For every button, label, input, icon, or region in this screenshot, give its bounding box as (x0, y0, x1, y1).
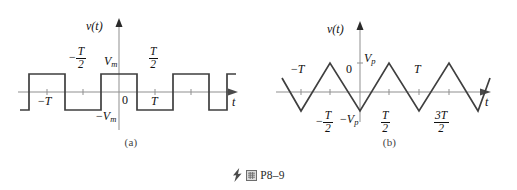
panel-b-amp-neg-label: −Vp (340, 113, 358, 126)
panel-b-ticks (301, 63, 449, 95)
panel-b-triangle-wave: v(t) t 0 Vp −Vp −T −T2 T2 T 3T2 (b) (262, 0, 517, 160)
panel-a-pos-half-T-label: T2 (148, 46, 158, 71)
panel-b-xaxis-label: t (485, 96, 488, 108)
panel-b-amp-pos-label: Vp (364, 52, 376, 65)
panel-b-neg-T-label: −T (291, 63, 304, 75)
panel-a-amp-pos-label: Vm (104, 55, 117, 68)
panel-b-three-half-T-label: 3T2 (433, 110, 449, 135)
panel-a-subcaption: (a) (0, 136, 262, 148)
panel-a-pos-T-label: T (151, 95, 158, 107)
panel-b-x-axis (276, 89, 491, 96)
panel-b-pos-half-T-label: T2 (380, 110, 390, 135)
panel-b-neg-half-T-label: −T2 (316, 110, 333, 135)
panel-b-origin-label: 0 (346, 63, 352, 75)
lightning-bolt-icon (232, 168, 243, 182)
panel-b-pos-T-label: T (414, 63, 421, 75)
panel-a-square-wave: v(t) t 0 Vm −Vm −T2 T2 −T T (a) (0, 0, 262, 160)
figure-root: v(t) t 0 Vm −Vm −T2 T2 −T T (a) (0, 0, 517, 190)
panel-b-subcaption: (b) (262, 136, 517, 148)
panel-a-origin-label: 0 (122, 94, 128, 106)
figure-caption: P8–9 (0, 160, 517, 190)
panel-a-amp-neg-label: −Vm (96, 110, 116, 123)
panel-b-yaxis-label: v(t) (327, 23, 344, 35)
panel-b-waveform (282, 63, 490, 111)
panel-a-yaxis-label: v(t) (86, 20, 103, 32)
panel-a-xaxis-label: t (232, 96, 235, 108)
panel-a-neg-T-label: −T (38, 95, 51, 107)
panel-a-neg-half-T-label: −T2 (69, 46, 86, 71)
figure-caption-text: P8–9 (260, 169, 284, 181)
media-grid-icon (246, 170, 257, 181)
